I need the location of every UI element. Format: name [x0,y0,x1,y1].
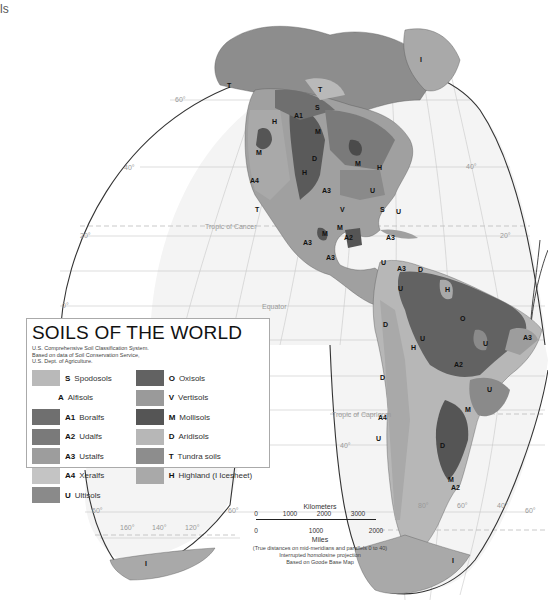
svg-text:H: H [377,164,382,171]
svg-text:I: I [145,560,147,567]
svg-text:M: M [355,160,361,167]
svg-text:U: U [483,340,488,347]
legend-item-vertisols: VVertisols [136,388,264,408]
km-label: Kilometers [250,503,390,510]
legend-item-boralfs: A1Boralfs [32,408,136,428]
svg-text:D: D [418,266,423,273]
swatch [32,429,60,445]
legend-item-tundra: TTundra soils [136,447,264,467]
swatch [136,468,164,484]
svg-text:H: H [411,344,416,351]
svg-text:60°: 60° [525,507,536,514]
svg-text:M: M [256,149,262,156]
km-ticks: 0 1000 2000 3000 [250,510,390,519]
svg-text:A3: A3 [303,239,312,246]
svg-text:U: U [396,208,401,215]
scale-bar: Kilometers 0 1000 2000 3000 0 1000 2000 … [250,503,390,566]
svg-text:U: U [487,386,492,393]
svg-text:40°: 40° [466,163,477,170]
swatch [32,409,60,425]
legend-right-column: OOxisols VVertisols MMollisols DAridisol… [136,369,264,506]
projection-notes: (True distances on mid-meridians and par… [250,545,390,566]
svg-text:S: S [315,104,320,111]
svg-text:A3: A3 [322,187,331,194]
legend-item-oxisols: OOxisols [136,369,264,389]
svg-text:U: U [370,187,375,194]
swatch [32,487,60,503]
swatch [136,429,164,445]
svg-text:60°: 60° [457,502,468,509]
legend-item-highland: HHighland (I Icesheet) [136,466,264,486]
svg-text:60°: 60° [228,507,239,514]
legend-item-alfisols: AAlfisols [32,388,136,408]
svg-text:20°: 20° [500,232,511,239]
legend-item-udalfs: A2Udalfs [32,427,136,447]
swatch [32,448,60,464]
svg-text:U: U [381,259,386,266]
svg-text:I: I [420,56,422,63]
svg-text:S: S [380,206,385,213]
swatch [32,468,60,484]
svg-text:D: D [440,442,445,449]
svg-text:O: O [460,315,466,322]
legend-item-ultisols: UUltisols [32,486,136,506]
svg-text:40°: 40° [124,164,135,171]
mile-ticks: 0 1000 2000 [250,527,390,536]
svg-text:M: M [322,230,328,237]
svg-text:H: H [445,286,450,293]
svg-text:T: T [227,82,232,89]
svg-text:H: H [302,169,307,176]
miles-label: Miles [250,536,390,543]
svg-text:M: M [465,406,471,413]
svg-text:D: D [380,374,385,381]
svg-text:A4: A4 [250,177,259,184]
svg-text:U: U [398,285,403,292]
svg-text:M: M [337,224,343,231]
svg-text:A2: A2 [451,484,460,491]
svg-text:I: I [452,557,454,564]
svg-text:40°: 40° [340,442,351,449]
svg-text:Equator: Equator [262,303,287,311]
legend-subtitle: U.S. Comprehensive Soil Classification S… [32,345,264,365]
svg-text:U: U [376,435,381,442]
svg-text:A4: A4 [378,414,387,421]
svg-text:A3: A3 [326,254,335,261]
legend-item-aridisols: DAridisols [136,427,264,447]
legend-panel: SOILS OF THE WORLD U.S. Comprehensive So… [26,318,270,468]
svg-text:20°: 20° [80,232,91,239]
svg-text:V: V [340,206,345,213]
svg-text:60°: 60° [175,96,186,103]
svg-text:A3: A3 [386,234,395,241]
legend-left-column: SSpodosols AAlfisols A1Boralfs A2Udalfs … [32,369,136,506]
svg-text:140°: 140° [152,524,167,531]
svg-text:A3: A3 [523,334,532,341]
swatch [32,370,60,386]
svg-text:A2: A2 [454,361,463,368]
svg-text:M: M [315,128,321,135]
svg-text:A1: A1 [294,112,303,119]
svg-text:60°: 60° [92,507,103,514]
svg-text:M: M [448,476,454,483]
legend-item-ustalfs: A3Ustalfs [32,447,136,467]
svg-text:40°: 40° [497,502,508,509]
svg-text:160°: 160° [120,524,135,531]
svg-text:0°: 0° [62,302,69,309]
svg-text:T: T [255,206,260,213]
southeast-ultisols [340,170,385,200]
svg-text:T: T [318,86,323,93]
svg-text:H: H [272,118,277,125]
svg-text:A2: A2 [344,234,353,241]
svg-text:80°: 80° [418,502,429,509]
scale-line [256,519,376,527]
svg-text:A3: A3 [397,265,406,272]
svg-text:D: D [383,321,388,328]
swatch [136,370,164,386]
svg-text:Tropic of Cancer: Tropic of Cancer [205,223,257,231]
swatch [136,390,164,406]
legend-item-xeralfs: A4Xeralfs [32,466,136,486]
swatch [136,448,164,464]
legend-item-spodosols: SSpodosols [32,369,136,389]
legend-title: SOILS OF THE WORLD [32,323,264,343]
svg-text:D: D [312,155,317,162]
svg-text:120°: 120° [185,524,200,531]
